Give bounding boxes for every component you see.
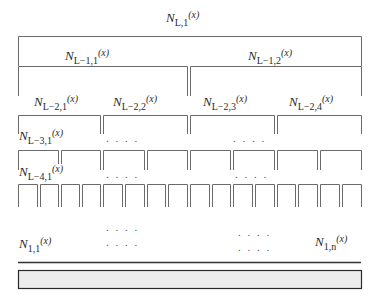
node-label-L-1-2: NL−1,2(x) bbox=[248, 48, 292, 66]
bracket-level-L-1-1 bbox=[19, 67, 188, 97]
node-label-L-4-1: NL−4,1(x) bbox=[19, 164, 63, 182]
node-label-L-2-1: NL−2,1(x) bbox=[34, 94, 78, 112]
node-label-L-3-1: NL−3,1(x) bbox=[19, 128, 63, 146]
ellipsis: . . . . bbox=[106, 221, 139, 233]
node-label-1-n: N1,n(x) bbox=[315, 234, 347, 252]
node-label-L-1: NL,1(x) bbox=[166, 10, 199, 28]
node-label-L-2-2: NL−2,2(x) bbox=[113, 94, 157, 112]
ellipsis: . . . . bbox=[106, 168, 139, 180]
ellipsis: . . . . bbox=[106, 236, 139, 248]
ellipsis: . . . . bbox=[233, 132, 266, 144]
node-label-L-2-4: NL−2,4(x) bbox=[289, 94, 333, 112]
ellipsis: . . . . bbox=[238, 226, 271, 238]
ellipsis: . . . . bbox=[106, 132, 139, 144]
node-label-L-1-1: NL−1,1(x) bbox=[65, 48, 109, 66]
input-bar bbox=[19, 271, 362, 289]
tree-diagram bbox=[0, 0, 375, 303]
ellipsis: . . . . bbox=[238, 241, 271, 253]
ellipsis: . . . . bbox=[235, 168, 268, 180]
node-label-L-2-3: NL−2,3(x) bbox=[203, 94, 247, 112]
node-label-1-1: N1,1(x) bbox=[19, 236, 51, 254]
bracket-level-L-1-2 bbox=[191, 67, 362, 97]
